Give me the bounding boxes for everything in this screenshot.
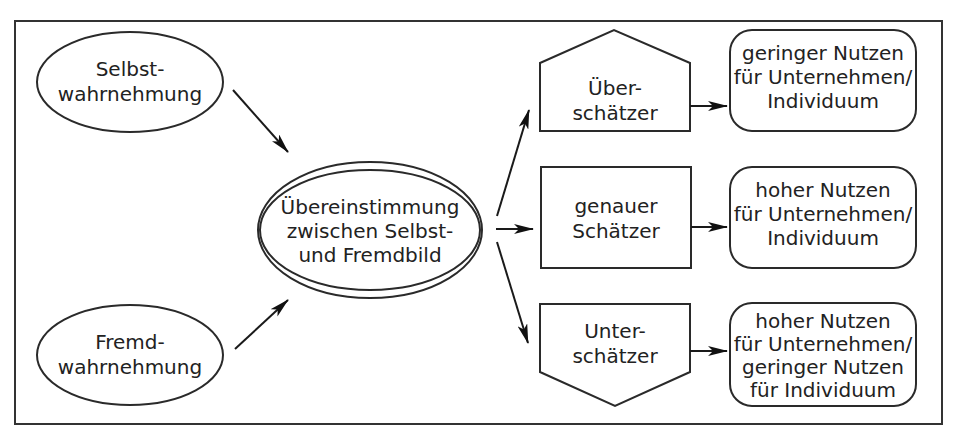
node-outcome-geringer-nutzen: geringer Nutzen für Unternehmen/ Individ… [730,30,916,131]
node-label: für Individuum [750,378,896,402]
node-label: Unter- [584,319,646,343]
node-label: Individuum [767,89,879,113]
node-label: hoher Nutzen [755,178,890,202]
node-outcome-hoher-nutzen: hoher Nutzen für Unternehmen/ Individuum [730,167,916,268]
node-selbstwahrnehmung: Selbst- wahrnehmung [37,32,223,132]
node-label: wahrnehmung [58,355,202,379]
node-ueberschaetzer: Über- schätzer [540,30,690,131]
arrow-fremd-to-center [235,300,288,349]
node-label: geringer Nutzen [742,355,904,379]
node-label: Fremd- [95,330,165,354]
node-label: und Fremdbild [298,243,441,267]
arrow-selbst-to-center [233,90,288,152]
node-label: geringer Nutzen [742,41,904,65]
node-label: hoher Nutzen [755,309,890,333]
node-label: Übereinstimmung [281,195,460,219]
diagram-canvas: Selbst- wahrnehmung Fremd- wahrnehmung Ü… [0,0,954,438]
node-label: Individuum [767,226,879,250]
node-unterschaetzer: Unter- schätzer [540,304,690,406]
node-label: für Unternehmen/ [734,202,913,226]
node-outcome-gemischt: hoher Nutzen für Unternehmen/ geringer N… [730,303,916,406]
node-label: wahrnehmung [58,82,202,106]
node-genauer-schaetzer: genauer Schätzer [541,167,691,268]
arrow-center-to-ueber [497,110,529,216]
node-label: schätzer [572,344,658,368]
node-label: Selbst- [96,57,165,81]
node-label: schätzer [572,101,658,125]
node-label: für Unternehmen/ [734,65,913,89]
node-label: für Unternehmen/ [734,332,913,356]
node-uebereinstimmung: Übereinstimmung zwischen Selbst- und Fre… [258,162,482,298]
node-fremdwahrnehmung: Fremd- wahrnehmung [37,305,223,405]
arrow-center-to-unter [497,242,528,343]
node-label: genauer [574,194,658,218]
node-label: zwischen Selbst- [287,219,454,243]
node-label: Schätzer [572,219,660,243]
node-label: Über- [588,76,642,100]
